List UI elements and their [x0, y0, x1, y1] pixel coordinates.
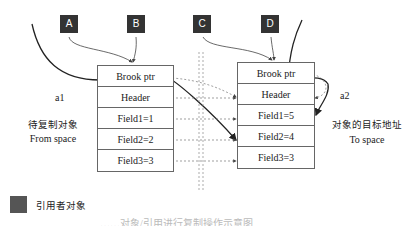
from-object-label-cn: 待复制对象 [18, 118, 88, 132]
figure-caption: ……对象/引用进行复制操作示意图 [100, 215, 253, 226]
from-field2: Field2=2 [98, 129, 173, 150]
from-field3: Field3=3 [98, 150, 173, 171]
referrer-a: A [60, 15, 78, 33]
to-field1: Field1=5 [238, 105, 314, 126]
legend-swatch [10, 196, 27, 213]
to-object-label-en: To space [325, 133, 409, 147]
to-field2: Field2=4 [238, 126, 314, 147]
to-field3: Field3=3 [238, 147, 314, 168]
referrer-c: C [193, 15, 211, 33]
to-object-box: Brook ptr Header Field1=5 Field2=4 Field… [237, 62, 315, 169]
referrer-b: B [127, 15, 145, 33]
from-field1: Field1=1 [98, 108, 173, 129]
from-object-name: a1 [55, 91, 64, 105]
legend-label: 引用者对象 [36, 199, 86, 213]
to-object-label-cn: 对象的目标地址 [325, 118, 409, 132]
to-object-name: a2 [340, 89, 349, 103]
from-header: Header [98, 87, 173, 108]
to-brook-ptr: Brook ptr [238, 63, 314, 84]
from-object-label-en: From space [18, 132, 88, 146]
from-object-box: Brook ptr Header Field1=1 Field2=2 Field… [97, 65, 174, 172]
from-brook-ptr: Brook ptr [98, 66, 173, 87]
referrer-d: D [261, 15, 279, 33]
to-header: Header [238, 84, 314, 105]
connector-layer [0, 0, 412, 226]
